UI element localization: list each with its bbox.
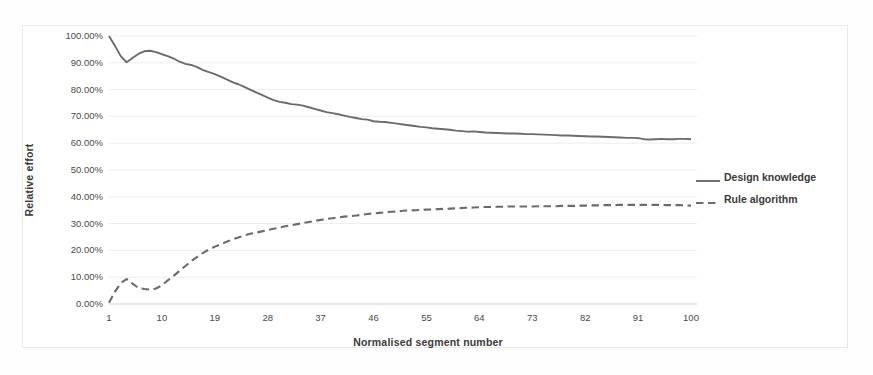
legend-label: Rule algorithm: [724, 193, 798, 205]
legend-swatch-dashed-icon: [695, 194, 721, 204]
series-line-0: [109, 36, 691, 139]
chart-frame: Relative effort Normalised segment numbe…: [22, 25, 848, 348]
gridlines: [109, 36, 697, 304]
legend-item[interactable]: Design knowledge: [695, 166, 845, 188]
legend-swatch-solid-icon: [695, 172, 721, 182]
chart-legend: Design knowledgeRule algorithm: [695, 166, 845, 210]
series-layer: [109, 36, 691, 303]
legend-item[interactable]: Rule algorithm: [695, 188, 845, 210]
legend-label: Design knowledge: [724, 171, 816, 183]
chart-figure: Relative effort Normalised segment numbe…: [0, 0, 873, 375]
series-line-1: [109, 205, 691, 303]
